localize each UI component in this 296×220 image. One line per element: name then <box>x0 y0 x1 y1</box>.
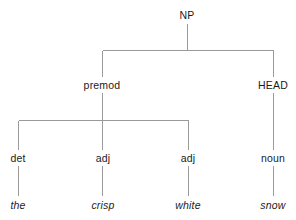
node-premod: premod <box>84 79 121 91</box>
leaf-the: the <box>10 199 25 211</box>
node-np: NP <box>180 9 195 21</box>
syntax-tree-diagram: NP premod HEAD det adj adj noun the cris… <box>0 0 296 220</box>
leaf-white: white <box>175 199 201 211</box>
node-head: HEAD <box>258 79 288 91</box>
node-adj-1: adj <box>96 152 111 164</box>
node-det: det <box>10 152 25 164</box>
leaf-crisp: crisp <box>91 199 114 211</box>
leaf-snow: snow <box>260 199 285 211</box>
node-noun: noun <box>261 152 285 164</box>
node-adj-2: adj <box>181 152 196 164</box>
tree-connector-lines <box>0 0 296 220</box>
